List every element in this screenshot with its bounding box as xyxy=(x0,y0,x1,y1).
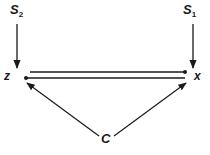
node-s2-subscript: 2 xyxy=(19,10,23,19)
node-c-label: C xyxy=(101,132,110,145)
node-s1-text: S xyxy=(183,2,192,17)
node-s2-label: S2 xyxy=(10,3,23,19)
edge-c-to-z xyxy=(27,83,99,136)
node-z-label: z xyxy=(4,70,10,82)
edge-c-to-x xyxy=(114,83,186,136)
dot-head-at-x xyxy=(183,70,187,74)
node-x-label: x xyxy=(194,70,201,82)
node-s2-text: S xyxy=(10,2,19,17)
node-s1-subscript: 1 xyxy=(192,10,196,19)
dot-head-at-z xyxy=(24,76,28,80)
node-s1-label: S1 xyxy=(183,3,196,19)
causal-diagram: S2 S1 z x C xyxy=(0,0,210,155)
